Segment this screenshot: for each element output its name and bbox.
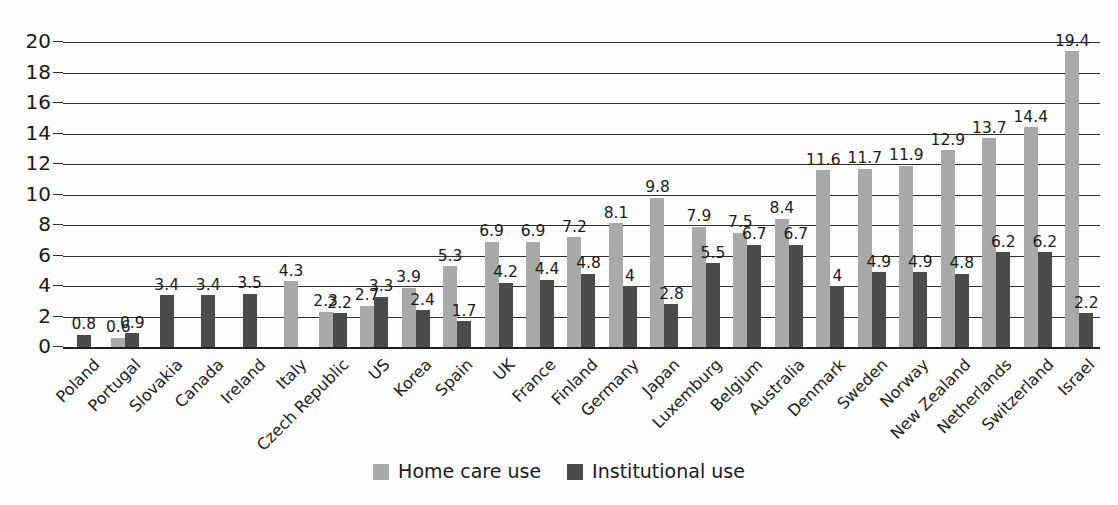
bar-group: 0.60.9 <box>104 42 145 347</box>
bar-value-label: 3.5 <box>237 276 262 292</box>
bar-value-label: 5.3 <box>438 249 463 265</box>
bar-group: 7.95.5 <box>685 42 726 347</box>
bar-value-label: 14.4 <box>1014 110 1049 126</box>
bar-value-label: 7.2 <box>562 220 587 236</box>
y-axis-tick-label: 2 <box>5 306 51 326</box>
y-axis-tick-mark <box>53 133 63 134</box>
bar-group: 12.94.8 <box>934 42 975 347</box>
bar-value-label: 6.7 <box>742 227 767 243</box>
bar-value-label: 8.4 <box>770 201 795 217</box>
bar-value-label: 4.4 <box>535 262 560 278</box>
bar-value-label: 7.9 <box>687 209 712 225</box>
y-axis-tick-mark <box>53 41 63 42</box>
bar-value-label: 4.9 <box>867 255 892 271</box>
y-axis-tick-label: 18 <box>5 62 51 82</box>
bar-value-label: 5.5 <box>701 246 726 262</box>
bar-value-label: 3.4 <box>196 278 221 294</box>
chart-legend: Home care use Institutional use <box>0 462 1118 481</box>
bar-group: 2.73.3 <box>353 42 394 347</box>
bar-value-label: 4.2 <box>493 265 518 281</box>
bar-institutional: 2.4 <box>416 310 430 347</box>
y-axis-tick-label: 4 <box>5 275 51 295</box>
bar-value-label: 19.4 <box>1055 34 1090 50</box>
bar-value-label: 13.7 <box>972 121 1007 137</box>
bar-group: 6.94.2 <box>478 42 519 347</box>
y-axis-tick-mark <box>53 316 63 317</box>
bar-value-label: 6.9 <box>521 224 546 240</box>
y-axis-tick-mark <box>53 346 63 347</box>
bar-value-label: 4.8 <box>949 256 974 272</box>
bar-home-care: 6.9 <box>526 242 540 347</box>
bar-value-label: 6.7 <box>784 227 809 243</box>
bar-group: 3.4 <box>187 42 228 347</box>
bar-group: 7.24.8 <box>561 42 602 347</box>
bar-value-label: 11.9 <box>889 148 924 164</box>
y-axis-tick-mark <box>53 285 63 286</box>
bar-group: 3.5 <box>229 42 270 347</box>
legend-item-home-care: Home care use <box>373 462 541 481</box>
legend-label-home-care: Home care use <box>398 462 541 481</box>
x-axis-label-text: US <box>365 355 394 384</box>
x-axis-label-text: UK <box>489 355 518 384</box>
y-axis-tick-label: 0 <box>5 336 51 356</box>
y-axis-tick-label: 20 <box>5 31 51 51</box>
bar-group: 5.31.7 <box>436 42 477 347</box>
bar-value-label: 4.3 <box>279 264 304 280</box>
y-axis-tick-mark <box>53 163 63 164</box>
bar-value-label: 3.3 <box>369 279 394 295</box>
bar-group: 2.32.2 <box>312 42 353 347</box>
bar-value-label: 2.8 <box>659 287 684 303</box>
bar-value-label: 6.9 <box>479 224 504 240</box>
legend-swatch-home-care-icon <box>373 464 389 480</box>
bar-groups: 0.80.60.93.43.43.54.32.32.22.73.33.92.45… <box>63 42 1100 347</box>
bar-value-label: 12.9 <box>931 133 966 149</box>
bar-institutional: 2.2 <box>333 313 347 347</box>
bar-value-label: 4 <box>625 269 635 285</box>
bar-value-label: 4.9 <box>908 255 933 271</box>
bar-institutional: 0.8 <box>77 335 91 347</box>
bar-chart: 02468101214161820 0.80.60.93.43.43.54.32… <box>0 0 1118 505</box>
bar-group: 11.74.9 <box>851 42 892 347</box>
plot-area: 02468101214161820 0.80.60.93.43.43.54.32… <box>63 42 1100 347</box>
bar-group: 11.64 <box>810 42 851 347</box>
bar-group: 6.94.4 <box>519 42 560 347</box>
bar-institutional: 4.4 <box>540 280 554 347</box>
y-axis-tick-mark <box>53 255 63 256</box>
y-axis-tick-mark <box>53 194 63 195</box>
y-axis-tick-mark <box>53 72 63 73</box>
bar-group: 11.94.9 <box>893 42 934 347</box>
bar-group: 8.14 <box>602 42 643 347</box>
bar-group: 0.8 <box>63 42 104 347</box>
bar-group: 3.4 <box>146 42 187 347</box>
bar-group: 7.56.7 <box>727 42 768 347</box>
bar-value-label: 3.4 <box>154 278 179 294</box>
bar-value-label: 2.2 <box>327 296 352 312</box>
y-axis-tick-label: 16 <box>5 92 51 112</box>
y-axis-tick-label: 14 <box>5 123 51 143</box>
y-axis-tick-label: 6 <box>5 245 51 265</box>
bar-group: 9.82.8 <box>644 42 685 347</box>
legend-swatch-institutional-icon <box>567 464 583 480</box>
y-axis-tick-label: 10 <box>5 184 51 204</box>
y-axis-tick-label: 8 <box>5 214 51 234</box>
y-axis-tick-mark <box>53 102 63 103</box>
bar-value-label: 4 <box>832 269 842 285</box>
bar-value-label: 8.1 <box>604 206 629 222</box>
y-axis-tick-mark <box>53 224 63 225</box>
bar-value-label: 9.8 <box>645 180 670 196</box>
x-axis-labels: PolandPortugalSlovakiaCanadaIrelandItaly… <box>63 349 1100 454</box>
bar-value-label: 0.8 <box>71 317 96 333</box>
y-axis-tick-label: 12 <box>5 153 51 173</box>
bar-value-label: 6.2 <box>991 235 1016 251</box>
bar-value-label: 6.2 <box>1032 235 1057 251</box>
bar-home-care: 12.9 <box>941 150 955 347</box>
bar-value-label: 4.8 <box>576 256 601 272</box>
bar-group: 13.76.2 <box>976 42 1017 347</box>
bar-value-label: 11.6 <box>806 153 841 169</box>
legend-label-institutional: Institutional use <box>592 462 745 481</box>
legend-item-institutional: Institutional use <box>567 462 745 481</box>
bar-value-label: 1.7 <box>452 304 477 320</box>
bar-group: 4.3 <box>270 42 311 347</box>
bar-value-label: 11.7 <box>848 151 883 167</box>
